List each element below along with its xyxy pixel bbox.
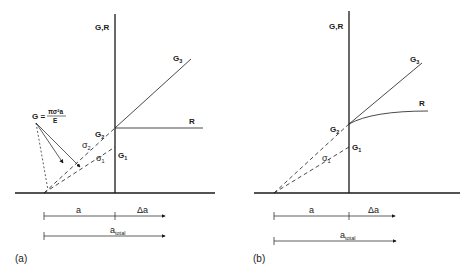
svg-text:E: E [53, 117, 58, 124]
a-label: a [309, 205, 314, 215]
g2-label: G2 [95, 130, 104, 140]
panel-a-tag: (a) [15, 253, 27, 264]
delta-a-label: Δa [368, 205, 379, 215]
g3-label: G3 [410, 55, 419, 65]
a-label: a [76, 205, 81, 215]
panel-b-tag: (b) [253, 253, 265, 264]
a-total-label: atotal [110, 225, 125, 236]
sigma1-dashed-line [44, 147, 115, 193]
axis-label: G,R [329, 22, 343, 31]
g1-label: G1 [352, 143, 361, 153]
g3-line [115, 59, 191, 128]
g3-label: G3 [173, 54, 182, 64]
a-total-label: atotal [340, 230, 355, 241]
svg-text:πσ²a: πσ²a [48, 108, 63, 115]
formula-arrow-1 [36, 123, 63, 163]
sigma1-dashed-line [274, 147, 349, 193]
panel-a: G,R G3 R G2 G1 σ2 σ1 G = πσ²a E a Δa [15, 14, 215, 264]
crack-resistance-diagram: G,R G3 R G2 G1 σ2 σ1 G = πσ²a E a Δa [0, 0, 470, 276]
r-label: R [189, 117, 195, 126]
svg-text:G =: G = [32, 112, 45, 121]
sigma2-label: σ2 [82, 140, 91, 151]
panel-b: G,R G3 R G2 G1 σ1 a Δa atotal (b) [253, 11, 460, 264]
r-label: R [419, 99, 425, 108]
r-curve [349, 111, 428, 124]
g1-label: G1 [118, 151, 127, 161]
g2-label: G2 [330, 125, 339, 135]
sigma1-label: σ1 [322, 153, 331, 164]
g3-line [349, 63, 422, 124]
axis-label: G,R [95, 23, 109, 32]
g-formula: G = πσ²a E [32, 108, 66, 124]
delta-a-label: Δa [137, 205, 148, 215]
